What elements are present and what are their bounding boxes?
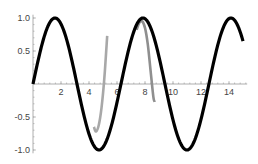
y-tick-label: 0.5 bbox=[17, 46, 30, 56]
x-tick-label: 14 bbox=[224, 87, 234, 97]
x-tick-label: 8 bbox=[142, 87, 147, 97]
axes: 24681012141.00.5-0.5-1.0 bbox=[14, 13, 247, 155]
line-chart: 24681012141.00.5-0.5-1.0 bbox=[0, 0, 258, 164]
y-tick-label: -1.0 bbox=[14, 145, 30, 155]
x-tick-label: 2 bbox=[58, 87, 63, 97]
x-tick-label: 12 bbox=[196, 87, 206, 97]
y-tick-label: -0.5 bbox=[14, 112, 30, 122]
y-tick-label: 1.0 bbox=[17, 13, 30, 23]
x-tick-label: 4 bbox=[86, 87, 91, 97]
x-tick-label: 10 bbox=[168, 87, 178, 97]
